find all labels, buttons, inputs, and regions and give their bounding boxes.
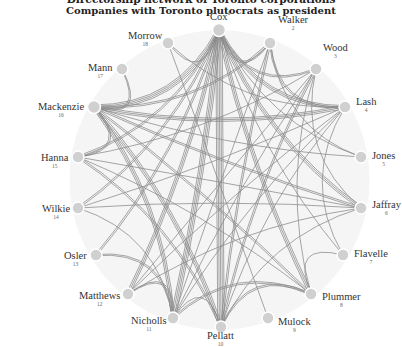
node-number: 3 [323, 53, 348, 59]
label-flavelle: Flavelle7 [354, 248, 388, 265]
label-jones: Jones5 [372, 150, 395, 167]
node-wood[interactable] [310, 63, 322, 75]
node-number: 8 [322, 302, 361, 308]
label-hanna: Hanna15 [41, 152, 68, 169]
node-number: 4 [356, 107, 376, 113]
node-osler[interactable] [90, 249, 102, 261]
node-name: Cox [210, 11, 228, 22]
label-osler: Osler13 [64, 250, 87, 267]
node-flavelle[interactable] [337, 249, 349, 261]
node-number: 17 [88, 73, 113, 79]
node-name: Mann [88, 62, 113, 73]
label-mackenzie: Mackenzie16 [38, 101, 84, 118]
node-name: Mackenzie [38, 101, 84, 112]
node-name: Hanna [41, 152, 68, 163]
node-matthews[interactable] [122, 288, 134, 300]
node-mann[interactable] [116, 63, 128, 75]
node-wilkie[interactable] [72, 202, 84, 214]
node-name: Pellatt [207, 330, 234, 341]
node-lash[interactable] [339, 101, 351, 113]
node-cox[interactable] [213, 24, 226, 37]
node-number: 9 [278, 327, 311, 333]
node-walker[interactable] [264, 37, 276, 49]
node-number: 14 [42, 214, 70, 220]
node-number: 18 [128, 41, 162, 47]
label-pellatt: Pellatt10 [207, 330, 234, 347]
node-number: 12 [79, 301, 120, 307]
label-plummer: Plummer8 [322, 291, 361, 308]
label-nicholls: Nicholls11 [131, 315, 167, 332]
label-jaffray: Jaffray6 [372, 199, 401, 216]
node-name: Walker [278, 14, 308, 25]
label-cox: Cox1 [210, 8, 231, 22]
node-name: Jones [372, 150, 395, 161]
node-mulock[interactable] [262, 312, 274, 324]
label-morrow: Morrow18 [128, 30, 162, 47]
node-name: Flavelle [354, 248, 388, 259]
node-number: 13 [64, 261, 87, 267]
label-wood: Wood3 [323, 42, 348, 59]
node-number: 6 [372, 210, 401, 216]
node-jaffray[interactable] [355, 202, 367, 214]
node-hanna[interactable] [72, 151, 84, 163]
node-name: Wilkie [42, 203, 70, 214]
node-number: 7 [354, 259, 388, 265]
node-number: 5 [372, 161, 395, 167]
node-jones[interactable] [355, 151, 367, 163]
label-wilkie: Wilkie14 [42, 203, 70, 220]
node-name: Morrow [128, 30, 162, 41]
node-name: Plummer [322, 291, 361, 302]
node-nicholls[interactable] [167, 312, 179, 324]
label-mulock: Mulock9 [278, 316, 311, 333]
node-mackenzie[interactable] [88, 101, 101, 114]
node-number: 1 [228, 10, 231, 16]
node-plummer[interactable] [305, 288, 317, 300]
node-name: Mulock [278, 316, 311, 327]
label-matthews: Matthews12 [79, 290, 120, 307]
node-name: Lash [356, 96, 376, 107]
node-number: 2 [278, 25, 308, 31]
node-morrow[interactable] [162, 37, 174, 49]
label-walker: Walker2 [278, 14, 308, 31]
label-lash: Lash4 [356, 96, 376, 113]
node-number: 16 [38, 112, 84, 118]
node-name: Matthews [79, 290, 120, 301]
node-name: Nicholls [131, 315, 167, 326]
node-number: 15 [41, 163, 68, 169]
node-number: 11 [131, 326, 167, 332]
node-name: Wood [323, 42, 348, 53]
node-number: 10 [207, 341, 234, 347]
label-mann: Mann17 [88, 62, 113, 79]
node-name: Osler [64, 250, 87, 261]
node-name: Jaffray [372, 199, 401, 210]
